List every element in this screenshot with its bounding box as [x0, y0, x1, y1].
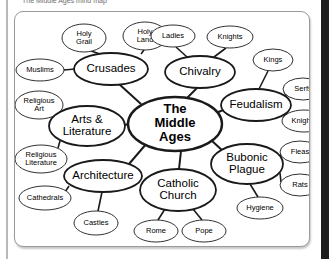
- page-left-rail: [6, 0, 8, 259]
- label-cathedrals: Cathedrals: [27, 193, 64, 202]
- label-serfs: Serfs: [294, 84, 310, 93]
- label-catholic-church: CatholicChurch: [157, 177, 199, 201]
- label-feudalism: Feudalism: [229, 98, 282, 110]
- center-node: TheMiddleAges: [128, 97, 222, 151]
- link-crusades-holy-land: [141, 50, 144, 54]
- label-holy-grail: HolyGrail: [76, 29, 92, 47]
- spoke-crusades: [119, 84, 141, 104]
- label-pope: Pope: [195, 226, 213, 235]
- label-bubonic-plague: BubonicPlague: [226, 151, 268, 175]
- spoke-architecture: [129, 143, 147, 164]
- label-rats: Rats: [292, 180, 308, 189]
- link-chivalry-ladies: [176, 47, 187, 57]
- label-architecture: Architecture: [72, 169, 133, 181]
- label-chivalry: Chivalry: [179, 65, 221, 77]
- label-religious-literature: ReligiousLiterature: [25, 150, 57, 168]
- link-chivalry-knights: [214, 48, 226, 57]
- diagram-frame: HolyGrailHolyLandMuslimsLadiesKnightsKin…: [14, 11, 310, 247]
- caption-text: The Middle Ages mind map: [22, 0, 292, 5]
- link-bubonic-hygiene: [250, 184, 258, 197]
- label-castles: Castles: [83, 218, 108, 227]
- label-ladies: Ladies: [162, 31, 184, 40]
- mind-map-canvas: HolyGrailHolyLandMuslimsLadiesKnightsKin…: [15, 12, 310, 247]
- label-crusades: Crusades: [86, 62, 135, 74]
- label-knights-feudalism: Knights: [291, 116, 310, 125]
- link-feudalism-kings: [259, 71, 268, 89]
- label-kings: Kings: [264, 55, 283, 64]
- link-catholic-rome: [158, 209, 165, 220]
- label-rome: Rome: [146, 226, 166, 235]
- label-muslims: Muslims: [26, 65, 54, 74]
- spoke-catholic: [179, 151, 181, 169]
- screenshot-root: The Middle Ages mind map HolyGrailHolyLa…: [0, 0, 329, 259]
- label-fleas: Fleas: [291, 147, 310, 156]
- link-architecture-castles: [98, 192, 102, 211]
- spoke-chivalry: [187, 88, 197, 98]
- page-right-rail: [321, 0, 329, 259]
- link-bubonic-rats: [280, 173, 281, 182]
- label-hygiene: Hygiene: [246, 203, 274, 212]
- label-knights-chivalry: Knights: [217, 32, 242, 41]
- link-arts-religious-literature: [58, 141, 60, 148]
- link-catholic-pope: [193, 209, 202, 220]
